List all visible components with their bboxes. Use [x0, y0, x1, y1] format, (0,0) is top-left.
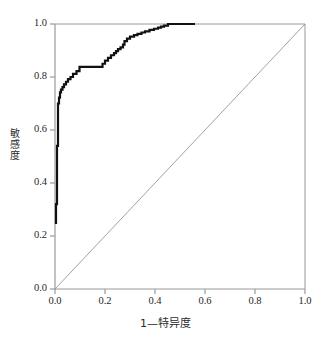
reference-diagonal-line	[55, 24, 305, 289]
x-tick-label: 0.6	[185, 295, 225, 306]
y-tick-label: 0.4	[1, 176, 47, 187]
x-axis-label: 1—特异度	[0, 314, 331, 330]
y-axis-label-char-2: 感	[6, 139, 24, 150]
x-tick-label: 0.8	[235, 295, 275, 306]
y-tick-label: 0.0	[1, 282, 47, 293]
y-tick-label: 0.6	[1, 123, 47, 134]
chart-canvas	[0, 0, 331, 340]
roc-curve-line	[56, 24, 195, 224]
x-tick-label: 0.0	[35, 295, 75, 306]
roc-chart: 敏 感 度 1—特异度 0.00.20.40.60.81.00.00.20.40…	[0, 0, 331, 340]
x-tick-label: 0.4	[135, 295, 175, 306]
y-tick-label: 0.8	[1, 70, 47, 81]
y-axis-label-char-3: 度	[6, 150, 24, 161]
y-tick-label: 1.0	[1, 17, 47, 28]
x-tick-label: 1.0	[285, 295, 325, 306]
y-tick-label: 0.2	[1, 229, 47, 240]
x-tick-label: 0.2	[85, 295, 125, 306]
